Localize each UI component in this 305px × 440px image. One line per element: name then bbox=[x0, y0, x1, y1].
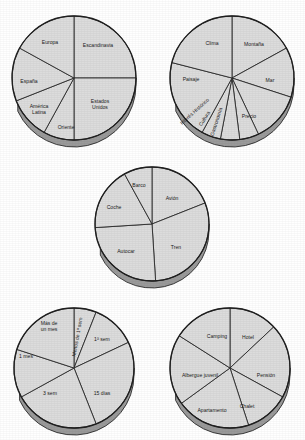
pie-chart-transporte: AviónTrenAutocarCocheBarco bbox=[81, 153, 223, 302]
pie-slice-escandinavia bbox=[74, 16, 136, 78]
pie-surface-motivos: MontañaMarPrecioGastronomíaCulturaInteré… bbox=[156, 2, 305, 161]
pie-chart-duracion: Menos de 1ª sem1ª sem15 días3 sem1 mesMá… bbox=[0, 294, 148, 440]
pie-chart-alojamiento: HotelPensiónChaletApartamentoAlbergue ju… bbox=[156, 294, 304, 440]
pie-surface-alojamiento: HotelPensiónChaletApartamentoAlbergue ju… bbox=[156, 294, 304, 440]
pie-chart-grid: EscandinaviaEstadosUnidosOrienteAméricaL… bbox=[0, 0, 305, 440]
pie-slice-estados-unidos bbox=[74, 78, 136, 140]
pie-chart-destinos: EscandinaviaEstadosUnidosOrienteAméricaL… bbox=[0, 2, 150, 161]
pie-slice-autocar bbox=[95, 224, 155, 281]
pie-chart-motivos: MontañaMarPrecioGastronomíaCulturaInteré… bbox=[156, 2, 305, 161]
pie-surface-transporte: AviónTrenAutocarCocheBarco bbox=[81, 153, 223, 302]
pie-charts-page: { "page": { "title": "Gráficos de sector… bbox=[0, 0, 305, 440]
pie-surface-duracion: Menos de 1ª sem1ª sem15 días3 sem1 mesMá… bbox=[0, 294, 148, 440]
pie-surface-destinos: EscandinaviaEstadosUnidosOrienteAméricaL… bbox=[0, 2, 150, 161]
